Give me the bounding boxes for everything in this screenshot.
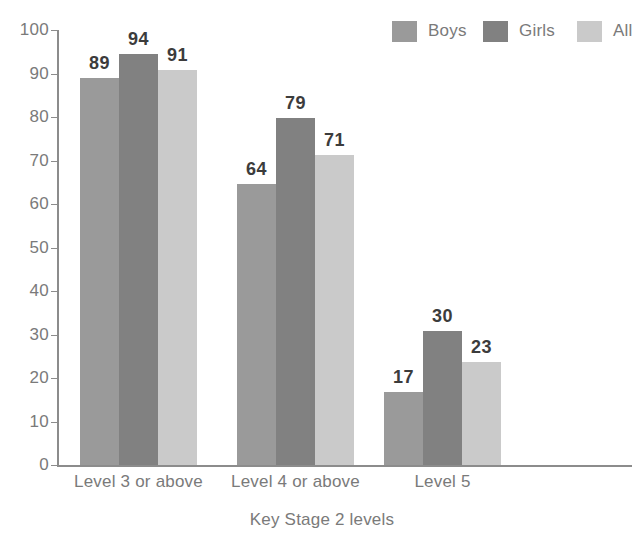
- x-axis-title: Key Stage 2 levels: [0, 510, 644, 530]
- bar-boys-2[interactable]: [237, 184, 276, 465]
- y-axis-tick-label: 90: [3, 64, 49, 84]
- y-axis-tick-label: 50: [3, 238, 49, 258]
- y-axis-tick-label: 0: [3, 455, 49, 475]
- y-axis-tick: [51, 117, 57, 118]
- bar-all-3[interactable]: [462, 362, 501, 465]
- bar-girls-1[interactable]: [119, 54, 158, 466]
- bar-value-label: 17: [393, 367, 414, 388]
- bar-boys-1[interactable]: [80, 78, 119, 465]
- y-axis-tick-label: 60: [3, 194, 49, 214]
- bar-all-1[interactable]: [158, 70, 197, 465]
- y-axis-tick-label: 20: [3, 368, 49, 388]
- y-axis-tick-label: 70: [3, 151, 49, 171]
- y-axis-tick-label: 10: [3, 412, 49, 432]
- y-axis-tick-label: 100: [3, 20, 49, 40]
- bar-value-label: 23: [471, 337, 492, 358]
- y-axis-tick-label: 80: [3, 107, 49, 127]
- plot-area: 899491647971173023: [57, 30, 632, 466]
- bar-value-label: 71: [324, 130, 345, 151]
- bar-value-label: 89: [89, 53, 110, 74]
- bar-chart: Boys Girls All 899491647971173023 010203…: [0, 0, 644, 544]
- x-axis-category-label: Level 4 or above: [231, 472, 360, 492]
- bar-value-label: 94: [128, 29, 149, 50]
- x-axis-line: [57, 465, 632, 467]
- y-axis-tick: [51, 335, 57, 336]
- y-axis-tick: [51, 161, 57, 162]
- bar-girls-3[interactable]: [423, 331, 462, 465]
- bar-boys-3[interactable]: [384, 392, 423, 465]
- y-axis-tick: [51, 291, 57, 292]
- y-axis-tick: [51, 74, 57, 75]
- bar-value-label: 91: [167, 45, 188, 66]
- y-axis-tick: [51, 465, 57, 466]
- bar-all-2[interactable]: [315, 155, 354, 465]
- bar-girls-2[interactable]: [276, 118, 315, 465]
- y-axis-tick: [51, 422, 57, 423]
- y-axis-tick: [51, 378, 57, 379]
- x-axis-category-label: Level 3 or above: [74, 472, 203, 492]
- bar-value-label: 64: [246, 159, 267, 180]
- y-axis-tick-label: 40: [3, 281, 49, 301]
- bar-value-label: 79: [285, 93, 306, 114]
- y-axis-tick: [51, 248, 57, 249]
- bar-value-label: 30: [432, 306, 453, 327]
- y-axis-line: [57, 30, 59, 466]
- y-axis-tick-label: 30: [3, 325, 49, 345]
- y-axis-tick: [51, 204, 57, 205]
- x-axis-category-label: Level 5: [414, 472, 470, 492]
- y-axis-tick: [51, 30, 57, 31]
